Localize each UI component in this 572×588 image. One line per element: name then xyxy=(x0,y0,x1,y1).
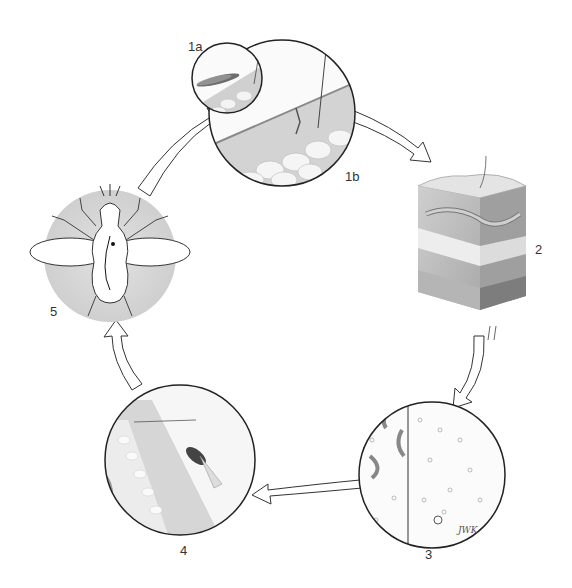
stage-5-fly-anatomy-circle xyxy=(30,184,190,322)
label-2: 2 xyxy=(535,243,542,256)
arrow-3-to-4 xyxy=(252,480,362,504)
stage-4-fly-on-skin-circle xyxy=(100,385,255,540)
arrow-1-to-2 xyxy=(348,110,431,162)
label-5: 5 xyxy=(50,305,57,318)
artist-signature: JWK xyxy=(458,525,478,535)
label-4: 4 xyxy=(180,544,187,557)
label-1b: 1b xyxy=(345,170,359,183)
life-cycle-diagram: 1a 1b 2 3 4 5 JWK xyxy=(0,0,572,588)
label-3: 3 xyxy=(425,548,432,561)
stage-3-microscope-circle xyxy=(359,402,505,548)
arrow-2-to-3 xyxy=(453,336,484,408)
arrow-4-to-5 xyxy=(104,320,142,390)
stage-2-skin-block xyxy=(418,156,526,340)
label-1a: 1a xyxy=(188,40,202,53)
